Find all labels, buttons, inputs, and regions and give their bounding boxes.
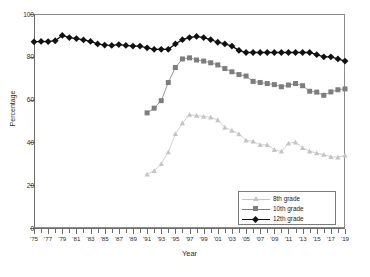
x-axis-tick bbox=[317, 229, 318, 234]
legend-label: 8th grade bbox=[273, 194, 300, 204]
x-axis-tick bbox=[310, 229, 311, 233]
x-axis-tick bbox=[331, 229, 332, 234]
legend-item-10th-grade: 10th grade bbox=[239, 204, 335, 214]
x-axis-tick bbox=[140, 229, 141, 233]
legend-label: 10th grade bbox=[273, 204, 304, 214]
x-axis-tick bbox=[154, 229, 155, 233]
y-axis-title: Percentage bbox=[9, 79, 16, 139]
x-axis-tick bbox=[190, 229, 191, 234]
x-axis-tick bbox=[168, 229, 169, 233]
x-axis-tick bbox=[98, 229, 99, 233]
y-axis-tick-label: 40 bbox=[8, 139, 34, 146]
x-axis-tick bbox=[62, 229, 63, 234]
y-axis-tick-label: 80 bbox=[8, 53, 34, 60]
y-axis-tick-label: 20 bbox=[8, 182, 34, 189]
x-axis-tick bbox=[133, 229, 134, 234]
x-axis-tick bbox=[119, 229, 120, 234]
x-axis-tick bbox=[288, 229, 289, 234]
x-axis-tick bbox=[91, 229, 92, 234]
legend-swatch-triangle-icon bbox=[239, 194, 273, 204]
x-axis-tick bbox=[83, 229, 84, 233]
x-axis-tick bbox=[274, 229, 275, 234]
y-axis-tick-label: 100 bbox=[8, 11, 34, 18]
x-axis-tick bbox=[338, 229, 339, 233]
x-axis-tick bbox=[55, 229, 56, 233]
x-axis-tick bbox=[303, 229, 304, 234]
x-axis-tick bbox=[267, 229, 268, 233]
x-axis-tick bbox=[281, 229, 282, 233]
x-axis-tick bbox=[232, 229, 233, 234]
x-axis-tick bbox=[324, 229, 325, 233]
x-axis-tick bbox=[126, 229, 127, 233]
legend-item-12th-grade: 12th grade bbox=[239, 214, 335, 224]
x-axis-tick-label: '19 bbox=[334, 235, 356, 243]
legend-item-8th-grade: 8th grade bbox=[239, 194, 335, 204]
x-axis-tick bbox=[218, 229, 219, 234]
x-axis-tick bbox=[253, 229, 254, 233]
x-axis-title: Year bbox=[34, 249, 345, 258]
x-axis-tick bbox=[105, 229, 106, 234]
x-axis-tick bbox=[296, 229, 297, 233]
x-axis-tick bbox=[34, 229, 35, 234]
x-axis-tick bbox=[147, 229, 148, 234]
x-axis-tick bbox=[48, 229, 49, 234]
x-axis-tick bbox=[161, 229, 162, 234]
x-axis-tick bbox=[182, 229, 183, 233]
legend-swatch-square-icon bbox=[239, 204, 273, 214]
chart-figure: 020406080100 '75'77'79'81'83'85'87'89'91… bbox=[0, 0, 370, 277]
x-axis-tick bbox=[211, 229, 212, 233]
y-axis-tick-label: 0 bbox=[8, 225, 34, 232]
x-axis-tick bbox=[225, 229, 226, 233]
legend-swatch-diamond-icon bbox=[239, 214, 273, 224]
chart-legend: 8th grade 10th grade 12th grade bbox=[238, 191, 336, 225]
x-axis-tick bbox=[204, 229, 205, 234]
x-axis-tick bbox=[197, 229, 198, 233]
x-axis-tick bbox=[69, 229, 70, 233]
x-axis-tick bbox=[112, 229, 113, 233]
x-axis-tick bbox=[345, 229, 346, 234]
x-axis-tick bbox=[260, 229, 261, 234]
x-axis-tick bbox=[239, 229, 240, 233]
y-axis-line bbox=[34, 14, 35, 228]
x-axis-tick bbox=[175, 229, 176, 234]
x-axis-tick bbox=[76, 229, 77, 234]
legend-label: 12th grade bbox=[273, 214, 304, 224]
x-axis-tick bbox=[41, 229, 42, 233]
x-axis-tick bbox=[246, 229, 247, 234]
